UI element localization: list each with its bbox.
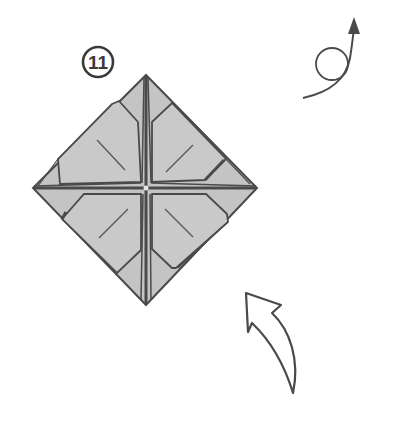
step-number: 11 <box>88 52 109 73</box>
turn-over-icon <box>303 17 360 98</box>
flap-lower-left <box>62 194 141 273</box>
fold-arrow-icon <box>246 293 295 393</box>
origami-diagram: 11 <box>0 0 393 427</box>
origami-model <box>33 75 257 305</box>
step-number-marker: 11 <box>83 47 113 77</box>
